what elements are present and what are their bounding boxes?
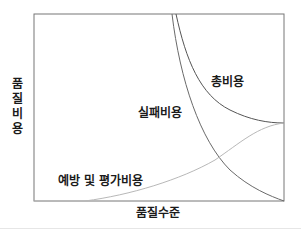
prevention-cost-curve [34,123,284,201]
total-cost-curve [176,14,284,123]
x-axis-label: 품질수준 [136,207,180,219]
y-axis-label: 품질비용 [10,77,24,137]
failure-cost-label: 실패비용 [138,107,182,119]
bottom-divider [0,228,301,229]
total-cost-label: 총비용 [211,76,244,88]
prevention-cost-label: 예방 및 평가비용 [58,175,143,187]
